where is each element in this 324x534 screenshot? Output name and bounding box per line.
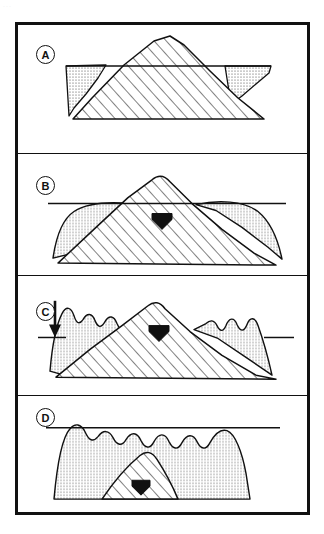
panel-a: A (18, 25, 307, 153)
panel-d-cross-section (18, 396, 307, 512)
panel-label-c: C (36, 302, 55, 321)
panel-d: D (18, 395, 307, 512)
panel-c-cross-section (18, 276, 307, 395)
panel-label-a: A (36, 45, 55, 64)
panel-b-cross-section (18, 154, 307, 275)
panel-label-d: D (36, 408, 55, 427)
panel-a-cross-section (18, 25, 307, 153)
corner-artifact-text: ... (3, 1, 25, 8)
figure-frame: A (15, 22, 310, 515)
figure-root: ... (0, 0, 324, 534)
panel-b: B (18, 153, 307, 275)
panel-label-b: B (36, 176, 55, 195)
panel-c: C (18, 275, 307, 395)
